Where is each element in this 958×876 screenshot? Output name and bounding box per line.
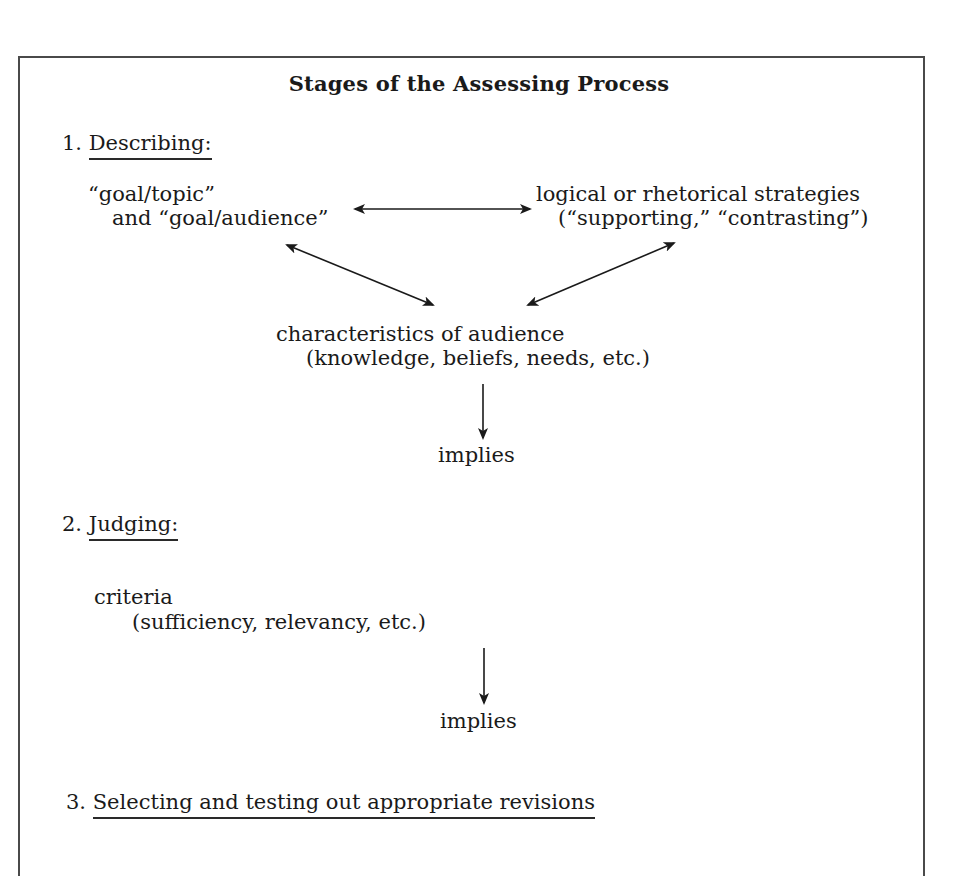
arrow-strategies-audience	[528, 243, 674, 305]
arrow-goal-audience	[287, 245, 433, 305]
